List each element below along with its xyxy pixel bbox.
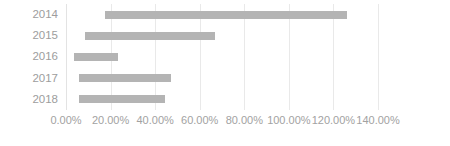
x-axis-label-20.00%: 20.00% (92, 112, 129, 128)
bar-2016[interactable] (74, 53, 119, 61)
x-axis-label-0.00%: 0.00% (50, 112, 81, 128)
bar-row-2015[interactable] (66, 25, 378, 46)
y-axis-label-2017: 2017 (32, 68, 58, 89)
y-axis-label-2015: 2015 (32, 25, 58, 46)
bar-row-2016[interactable] (66, 46, 378, 67)
x-axis-label-60.00%: 60.00% (181, 112, 218, 128)
bar-2014[interactable] (105, 11, 347, 19)
x-axis-label-120.00%: 120.00% (312, 112, 355, 128)
bar-row-2014[interactable] (66, 4, 378, 25)
y-axis-label-2016: 2016 (32, 46, 58, 67)
y-axis-category-labels: 20142015201620172018 (0, 4, 58, 110)
x-axis-tick-labels: 0.00%20.00%40.00%60.00%80.00%100.00%120.… (0, 112, 450, 132)
chart-container: 20142015201620172018 0.00%20.00%40.00%60… (0, 0, 450, 146)
gridline-140.00% (378, 4, 379, 110)
bar-2015[interactable] (85, 32, 215, 40)
y-axis-label-2014: 2014 (32, 4, 58, 25)
bar-2017[interactable] (79, 74, 170, 82)
x-axis-label-140.00%: 140.00% (356, 112, 399, 128)
y-axis-label-2018: 2018 (32, 89, 58, 110)
x-axis-label-80.00%: 80.00% (226, 112, 263, 128)
plot-area (66, 4, 378, 110)
x-axis-label-100.00%: 100.00% (267, 112, 310, 128)
bar-row-2017[interactable] (66, 68, 378, 89)
bar-2018[interactable] (79, 95, 165, 103)
bar-row-2018[interactable] (66, 89, 378, 110)
x-axis-label-40.00%: 40.00% (136, 112, 173, 128)
